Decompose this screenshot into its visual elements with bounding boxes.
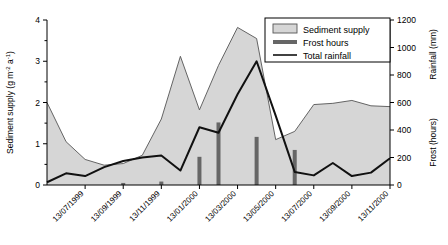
y-tick-label-right: 800: [397, 70, 411, 80]
y-tick-label-right: 1000: [397, 43, 416, 53]
y-axis-title-rainfall: Rainfall (mm): [428, 29, 438, 80]
legend-swatch-sediment-supply: [273, 24, 297, 33]
y-tick-label-left: 4: [35, 15, 40, 25]
y-axis-title-frost: Frost (hours): [428, 118, 438, 167]
chart-figure: 0123402004006008001000120013/07/199913/0…: [0, 0, 448, 245]
y-tick-label-right: 400: [397, 125, 411, 135]
legend-label: Frost hours: [303, 38, 349, 48]
legend-layer: Sediment supplyFrost hoursTotal rainfall: [265, 18, 390, 62]
frost-hours-bar: [159, 182, 163, 185]
y-axis-title-text-3: ): [5, 51, 15, 54]
x-tick-label: 13/07/1999: [51, 189, 86, 224]
x-tick-label: 13/11/2000: [356, 189, 391, 224]
y-axis-title-left: Sediment supply (g m-2 a-1): [5, 51, 15, 154]
y-tick-label-right: 600: [397, 98, 411, 108]
y-tick-label-left: 3: [35, 56, 40, 66]
y-tick-label-left: 1: [35, 139, 40, 149]
frost-hours-bar: [197, 157, 201, 185]
legend-label: Total rainfall: [303, 51, 351, 61]
x-tick-label: 13/03/2000: [203, 189, 238, 224]
y-tick-label-left: 2: [35, 98, 40, 108]
legend-label: Sediment supply: [303, 25, 370, 35]
chart-svg: 0123402004006008001000120013/07/199913/0…: [0, 0, 448, 245]
x-tick-label: 13/09/2000: [318, 189, 353, 224]
y-tick-label-right: 0: [397, 180, 402, 190]
x-tick-label: 13/11/1999: [127, 189, 162, 224]
x-tick-label: 13/05/2000: [241, 189, 276, 224]
x-tick-label: 13/01/2000: [165, 189, 200, 224]
y-tick-label-right: 1200: [397, 15, 416, 25]
x-tick-label: 13/09/1999: [89, 189, 124, 224]
y-axis-title-text: Sediment supply (g m: [5, 72, 15, 154]
y-tick-label-right: 200: [397, 153, 411, 163]
y-tick-label-left: 0: [35, 180, 40, 190]
frost-hours-bar: [255, 137, 259, 185]
x-tick-label: 13/07/2000: [280, 189, 315, 224]
